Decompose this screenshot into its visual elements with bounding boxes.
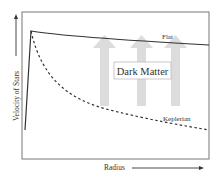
arrow-right-icon bbox=[199, 166, 204, 170]
keplerian-label: Keplerian bbox=[163, 115, 191, 123]
rotation-curve-diagram: Dark Matter Flat Keplerian Velocity of S… bbox=[0, 0, 220, 178]
x-axis-label: Radius bbox=[104, 163, 125, 172]
arrow-up-icon bbox=[14, 14, 18, 19]
flat-label: Flat bbox=[162, 33, 173, 41]
y-axis-label: Velocity of Stars bbox=[12, 71, 21, 121]
y-axis: Velocity of Stars bbox=[12, 14, 21, 121]
up-arrow-icon bbox=[93, 35, 116, 106]
dark-matter-label: Dark Matter bbox=[117, 66, 169, 77]
x-axis: Radius bbox=[104, 163, 204, 172]
